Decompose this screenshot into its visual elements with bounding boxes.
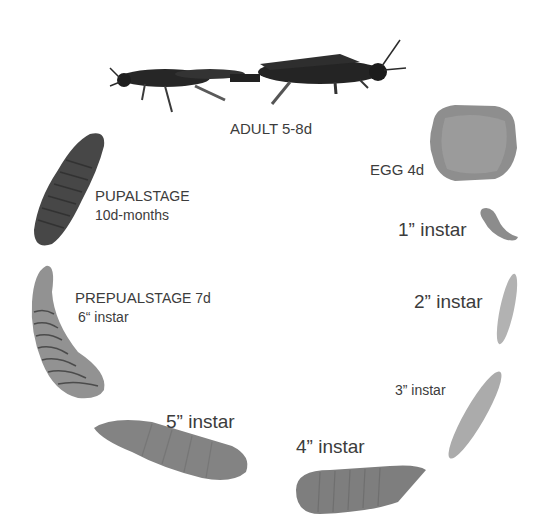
adult-fly-icon xyxy=(110,38,410,118)
prepupa-label-bold: PREPUAL xyxy=(75,289,145,306)
prepupa-label-rest: STAGE 7d xyxy=(145,290,211,306)
larva-instar2-icon xyxy=(492,272,522,347)
prepupa-larva-icon xyxy=(28,262,118,402)
instar1-label: 1” instar xyxy=(398,220,467,241)
instar2-label: 2” instar xyxy=(414,292,483,313)
larva-instar4-icon xyxy=(290,462,430,518)
instar5-label: 5” instar xyxy=(166,412,235,433)
prepupa-sublabel: 6“ instar xyxy=(78,310,129,325)
pupa-label-bold: PUPAL xyxy=(95,187,143,204)
egg-cluster-icon xyxy=(425,103,520,183)
larva-instar1-icon xyxy=(478,205,523,245)
pupa-label-rest: STAGE xyxy=(143,188,189,204)
prepupa-label: PREPUALSTAGE 7d xyxy=(75,290,211,307)
adult-label: ADULT 5-8d xyxy=(230,121,312,138)
egg-label: EGG 4d xyxy=(370,162,424,179)
pupa-label: PUPALSTAGE xyxy=(95,188,190,205)
instar3-label: 3” instar xyxy=(395,383,446,398)
larva-instar3-icon xyxy=(445,365,505,465)
instar4-label: 4” instar xyxy=(296,437,365,458)
pupa-sublabel: 10d-months xyxy=(95,208,169,223)
